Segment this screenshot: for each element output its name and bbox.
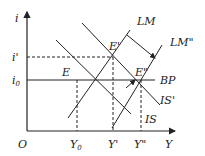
is-label: IS — [144, 113, 157, 126]
x-axis-label: Y — [165, 138, 174, 151]
lm-double-prime-label: LM" — [169, 36, 194, 49]
lm-shift-arrow — [127, 35, 155, 58]
point-e-prime-label: E' — [108, 40, 120, 53]
i-prime-label: i' — [12, 51, 19, 64]
is-prime-curve — [82, 23, 160, 105]
y-prime-label: Y' — [108, 138, 118, 151]
bp-label: BP — [159, 74, 176, 87]
i-zero-label: i0 — [12, 74, 21, 88]
is-lm-bp-diagram: i Y O i' i0 Y0 Y' Y" LM LM" BP IS' IS E … — [0, 0, 205, 156]
y-double-prime-label: Y" — [134, 138, 146, 151]
point-e-double-prime-label: E" — [134, 66, 148, 79]
y-zero-label: Y0 — [70, 138, 82, 152]
origin-label: O — [18, 138, 27, 151]
point-e-label: E — [61, 66, 70, 79]
is-prime-label: IS' — [159, 94, 175, 107]
lm-curve — [68, 30, 130, 118]
e-shift-arrow — [126, 80, 135, 88]
y-axis-label: i — [15, 12, 19, 25]
lm-label: LM — [136, 15, 156, 28]
